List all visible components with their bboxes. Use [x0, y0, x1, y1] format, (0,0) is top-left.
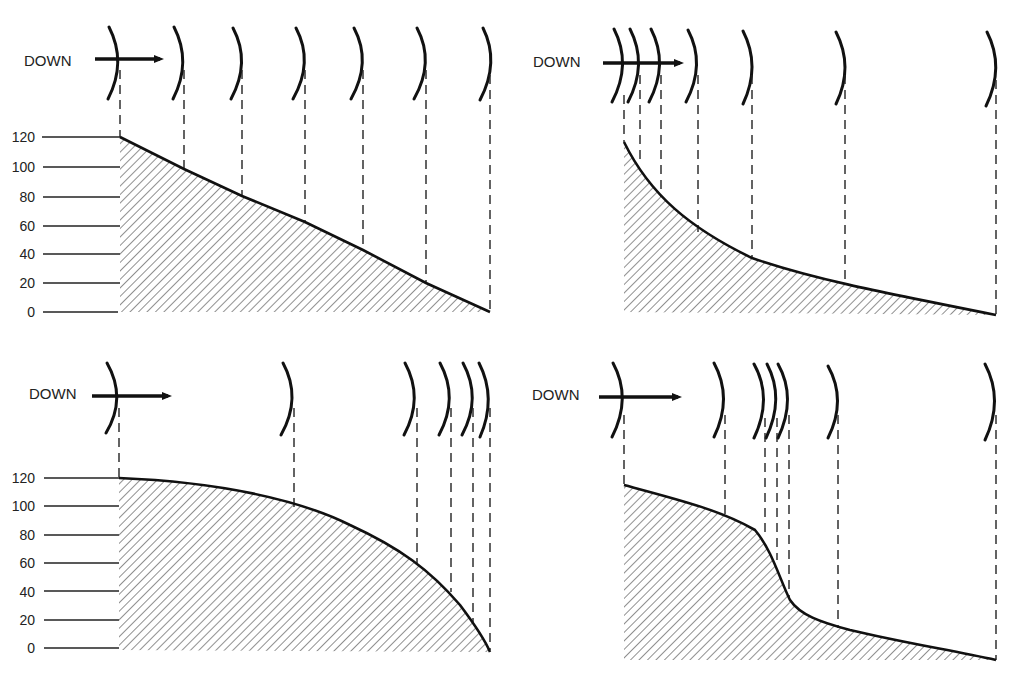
wavefront-icon [439, 363, 449, 435]
profile-area [119, 478, 490, 652]
y-tick-label: 80 [19, 189, 35, 205]
wavefront-icon [106, 363, 117, 433]
wavefront-icon [714, 363, 724, 437]
diagram-canvas: DOWN 120 100 80 60 40 20 0 [0, 0, 1013, 674]
wavefront-icon [404, 363, 414, 435]
wavefront-icon [754, 364, 764, 438]
wavefront-icon [649, 29, 660, 102]
wavefront-icon [173, 27, 183, 99]
wavefronts [612, 363, 995, 440]
direction-label: DOWN [29, 385, 77, 402]
panel-top-left: DOWN 120 100 80 60 40 20 0 [12, 27, 491, 320]
wavefront-icon [612, 29, 623, 102]
wavefront-icon [743, 31, 752, 104]
wavefronts [612, 29, 996, 106]
wavefront-icon [985, 364, 995, 440]
profile-area [624, 142, 996, 315]
y-tick-label: 40 [19, 584, 35, 600]
direction-label: DOWN [24, 52, 72, 69]
wavefront-icon [480, 28, 491, 100]
y-tick-label: 120 [12, 470, 36, 486]
wavefront-icon [628, 29, 639, 102]
wavefront-icon [231, 28, 242, 99]
wavefront-icon [766, 364, 776, 438]
direction-label: DOWN [533, 53, 581, 70]
y-tick-label: 60 [19, 218, 35, 234]
panel-bottom-left: DOWN 120 100 80 60 40 20 0 [12, 363, 490, 656]
y-tick-label: 40 [19, 246, 35, 262]
wavefront-icon [293, 28, 304, 99]
wavefront-icon [414, 28, 425, 99]
wavefront-icon [686, 30, 697, 102]
y-tick-label: 80 [19, 527, 35, 543]
wavefront-icon [108, 27, 118, 99]
y-tick-label: 60 [19, 555, 35, 571]
y-tick-label: 0 [27, 304, 35, 320]
wavefront-icon [479, 363, 488, 437]
y-tick-label: 120 [12, 129, 36, 145]
panel-top-right: DOWN [533, 29, 996, 315]
y-tick-label: 100 [12, 159, 36, 175]
wavefront-icon [351, 28, 362, 99]
wavefront-icon [986, 32, 996, 106]
y-tick-label: 20 [19, 275, 35, 291]
wavefront-icon [836, 32, 845, 104]
profile-area [624, 485, 996, 660]
y-tick-label: 0 [27, 640, 35, 656]
y-tick-label: 20 [19, 612, 35, 628]
y-axis: 120 100 80 60 40 20 0 [12, 470, 119, 656]
wavefront-icon [612, 363, 622, 437]
y-axis: 120 100 80 60 40 20 0 [12, 129, 120, 320]
wavefront-icon [281, 363, 292, 435]
wavefront-icon [828, 366, 838, 438]
direction-label: DOWN [532, 386, 580, 403]
wavefronts [106, 363, 488, 437]
y-tick-label: 100 [12, 498, 36, 514]
wavefront-icon [778, 364, 788, 438]
wavefront-icon [462, 363, 472, 435]
wavefronts [108, 27, 491, 100]
panel-bottom-right: DOWN [532, 363, 996, 660]
